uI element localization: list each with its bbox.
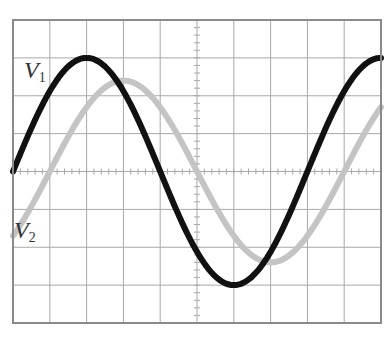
label-v1-main: V [24, 57, 39, 83]
label-v2: V2 [14, 218, 36, 245]
oscilloscope-display [0, 0, 384, 342]
label-v2-main: V [14, 217, 29, 243]
label-v1-sub: 1 [39, 70, 46, 85]
label-v1: V1 [24, 58, 46, 85]
label-v2-sub: 2 [29, 230, 36, 245]
